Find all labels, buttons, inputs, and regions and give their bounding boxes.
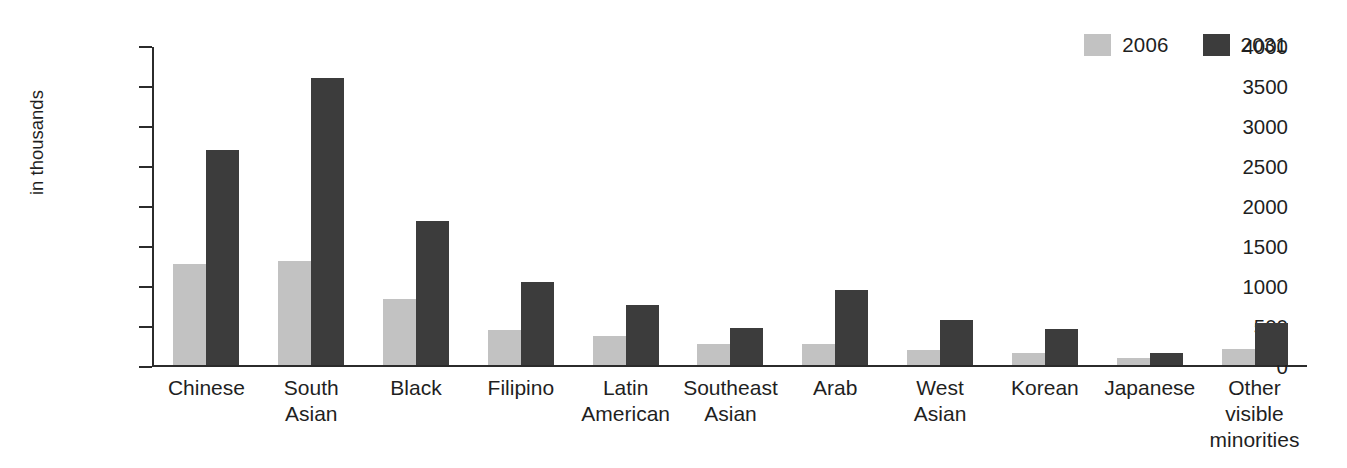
category-label-line: American bbox=[573, 401, 678, 427]
bar-2006 bbox=[1117, 358, 1150, 365]
category-label-line: Southeast bbox=[678, 375, 783, 401]
x-axis-category-labels: ChineseSouthAsianBlackFilipinoLatinAmeri… bbox=[154, 375, 1307, 453]
bar-group bbox=[1097, 47, 1202, 365]
bar-group bbox=[783, 47, 888, 365]
bar-group bbox=[364, 47, 469, 365]
bar-group bbox=[888, 47, 993, 365]
bar-group bbox=[678, 47, 783, 365]
bar-2006 bbox=[383, 299, 416, 365]
bar-2006 bbox=[488, 330, 521, 365]
category-label-line: South bbox=[259, 375, 364, 401]
bar-group bbox=[993, 47, 1098, 365]
bar-2031 bbox=[626, 305, 659, 365]
category-label-line: Asian bbox=[678, 401, 783, 427]
category-label-line: Asian bbox=[888, 401, 993, 427]
bar-groups bbox=[154, 47, 1307, 365]
category-label-line: Asian bbox=[259, 401, 364, 427]
bar-group bbox=[259, 47, 364, 365]
category-label: Chinese bbox=[154, 375, 259, 453]
category-label: SouthAsian bbox=[259, 375, 364, 453]
x-axis-line bbox=[152, 365, 1307, 367]
bar-2031 bbox=[1255, 323, 1288, 365]
category-label: LatinAmerican bbox=[573, 375, 678, 453]
category-label-line: Filipino bbox=[468, 375, 573, 401]
bar-2006 bbox=[278, 261, 311, 365]
bar-2031 bbox=[730, 328, 763, 365]
y-tick-mark bbox=[139, 326, 152, 328]
bar-2031 bbox=[521, 282, 554, 365]
y-axis-title: in thousands bbox=[26, 90, 48, 195]
y-tick-mark bbox=[139, 166, 152, 168]
category-label-line: West bbox=[888, 375, 993, 401]
bar-2031 bbox=[416, 221, 449, 365]
bar-2006 bbox=[1222, 349, 1255, 365]
category-label: SoutheastAsian bbox=[678, 375, 783, 453]
category-label-line: Korean bbox=[993, 375, 1098, 401]
category-label-line: Latin bbox=[573, 375, 678, 401]
bar-2031 bbox=[311, 78, 344, 365]
bar-group bbox=[154, 47, 259, 365]
bar-group bbox=[573, 47, 678, 365]
category-label: Korean bbox=[993, 375, 1098, 453]
category-label-line: Arab bbox=[783, 375, 888, 401]
y-tick-mark bbox=[139, 206, 152, 208]
plot-area: 05001000150020002500300035004000 bbox=[152, 47, 1307, 367]
category-label-line: Japanese bbox=[1097, 375, 1202, 401]
bar-2006 bbox=[1012, 353, 1045, 365]
bar-2031 bbox=[1045, 329, 1078, 365]
bar-2006 bbox=[593, 336, 626, 365]
bar-2006 bbox=[802, 344, 835, 365]
category-label-line: Black bbox=[364, 375, 469, 401]
category-label-line: Chinese bbox=[154, 375, 259, 401]
category-label: Arab bbox=[783, 375, 888, 453]
bar-group bbox=[1202, 47, 1307, 365]
y-tick-mark bbox=[139, 126, 152, 128]
category-label: Filipino bbox=[468, 375, 573, 453]
category-label-line: visible bbox=[1202, 401, 1307, 427]
grouped-bar-chart: 2006 2031 in thousands 05001000150020002… bbox=[0, 0, 1347, 468]
category-label: Othervisibleminorities bbox=[1202, 375, 1307, 453]
y-tick-mark bbox=[139, 286, 152, 288]
bar-2031 bbox=[835, 290, 868, 365]
bar-2031 bbox=[940, 320, 973, 365]
y-tick-mark bbox=[139, 246, 152, 248]
category-label-line: minorities bbox=[1202, 427, 1307, 453]
category-label-line: Other bbox=[1202, 375, 1307, 401]
bar-2031 bbox=[1150, 353, 1183, 365]
bar-group bbox=[468, 47, 573, 365]
bar-2031 bbox=[206, 150, 239, 365]
y-tick-mark bbox=[139, 366, 152, 368]
category-label: Black bbox=[364, 375, 469, 453]
y-tick-mark bbox=[139, 86, 152, 88]
bar-2006 bbox=[907, 350, 940, 365]
category-label: WestAsian bbox=[888, 375, 993, 453]
bar-2006 bbox=[697, 344, 730, 365]
bar-2006 bbox=[173, 264, 206, 365]
y-tick-mark bbox=[139, 46, 152, 48]
category-label: Japanese bbox=[1097, 375, 1202, 453]
